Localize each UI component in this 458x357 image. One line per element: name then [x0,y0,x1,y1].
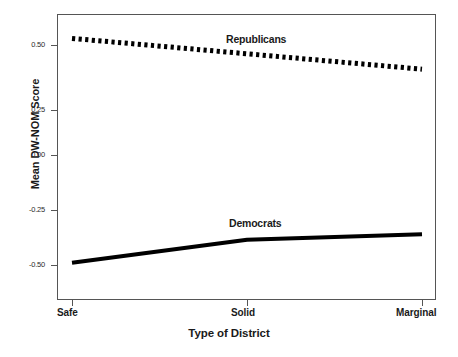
chart-figure: Mean DW-NOM Score 0.50 0.25 0.00 -0.25 -… [0,0,458,357]
x-axis-title: Type of District [0,327,458,339]
series-annotation-republicans: Republicans [226,33,286,45]
x-tick-label-marginal: Marginal [396,307,436,318]
x-tick-mark-marginal [422,300,423,306]
series-annotation-democrats: Democrats [229,217,281,229]
x-tick-label-solid: Solid [231,307,255,318]
x-tick-mark-safe [72,300,73,306]
series-line-democrats [72,234,422,263]
figure-caption [60,348,420,357]
x-tick-label-safe: Safe [57,307,78,318]
x-tick-mark-solid [247,300,248,306]
series-layer [0,0,458,357]
